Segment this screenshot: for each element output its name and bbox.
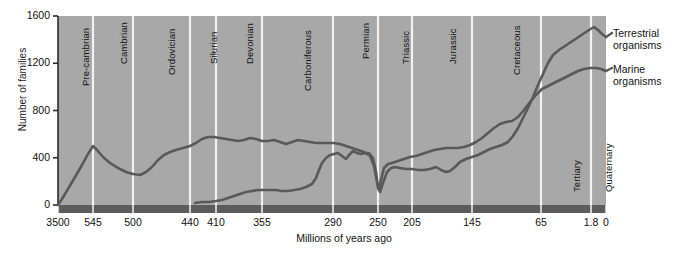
legend-connector	[606, 33, 612, 37]
period-label-silurian: Silurian	[208, 32, 219, 64]
period-label-permian: Permian	[360, 23, 371, 59]
period-label-jurassic: Jurassic	[447, 28, 458, 64]
x-tick-label: 145	[463, 216, 481, 228]
x-tick-label: 355	[253, 216, 271, 228]
legend-marine: Marine organisms	[613, 64, 661, 87]
chart-root: Number of families 0 400 800 1200 1600 P…	[0, 0, 673, 257]
x-tick-label: 545	[84, 216, 102, 228]
x-tick-label: 3500	[46, 216, 69, 228]
x-tick-label: 1.8	[584, 216, 599, 228]
legend-marine-line1: Marine	[613, 64, 661, 76]
x-axis-title: Millions of years ago	[234, 232, 454, 244]
x-tick-label: 410	[207, 216, 225, 228]
period-label-tertiary: Tertiary	[571, 160, 582, 192]
period-label-cretaceous: Cretaceous	[511, 25, 522, 75]
period-label-quaternary: Quaternary	[603, 143, 614, 192]
x-axis-bar	[58, 205, 606, 213]
period-label-carboniferous: Carboniferous	[302, 30, 313, 91]
period-label-ordovician: Ordovician	[166, 29, 177, 75]
period-label-triassic: Triassic	[400, 31, 411, 64]
x-tick-label: 0	[603, 216, 609, 228]
x-tick-label: 250	[369, 216, 387, 228]
legend-terrestrial-line1: Terrestrial	[613, 28, 661, 40]
x-tick-label: 440	[181, 216, 199, 228]
legend-connector	[606, 68, 612, 71]
x-tick-label: 65	[535, 216, 547, 228]
x-tick-label: 500	[124, 216, 142, 228]
x-tick-label: 290	[324, 216, 342, 228]
legend-terrestrial-line2: organisms	[613, 40, 661, 52]
period-label-cambrian: Cambrian	[118, 22, 129, 64]
period-label-devonian: Devonian	[244, 23, 255, 64]
legend-terrestrial: Terrestrial organisms	[613, 28, 661, 51]
period-label-pre-cambrian: Pre-cambrian	[80, 28, 91, 86]
x-tick-label: 205	[403, 216, 421, 228]
legend-marine-line2: organisms	[613, 76, 661, 88]
